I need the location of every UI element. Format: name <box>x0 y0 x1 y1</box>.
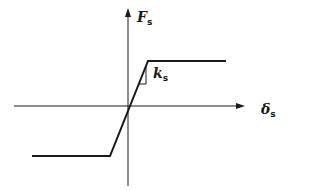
displacement-axis-label: δs <box>261 102 276 121</box>
vertical-axis <box>125 8 131 186</box>
force-subscript: s <box>147 17 152 27</box>
force-axis-label: Fs <box>137 10 152 29</box>
force-curve <box>32 61 226 156</box>
stiffness-symbol: k <box>153 65 163 81</box>
displacement-symbol: δ <box>261 101 270 117</box>
stiffness-subscript: s <box>163 73 168 83</box>
displacement-subscript: s <box>270 109 275 119</box>
arrow-right-icon <box>236 103 245 109</box>
arrow-up-icon <box>125 8 131 17</box>
force-symbol: F <box>137 9 147 25</box>
stiffness-label: ks <box>153 66 168 85</box>
